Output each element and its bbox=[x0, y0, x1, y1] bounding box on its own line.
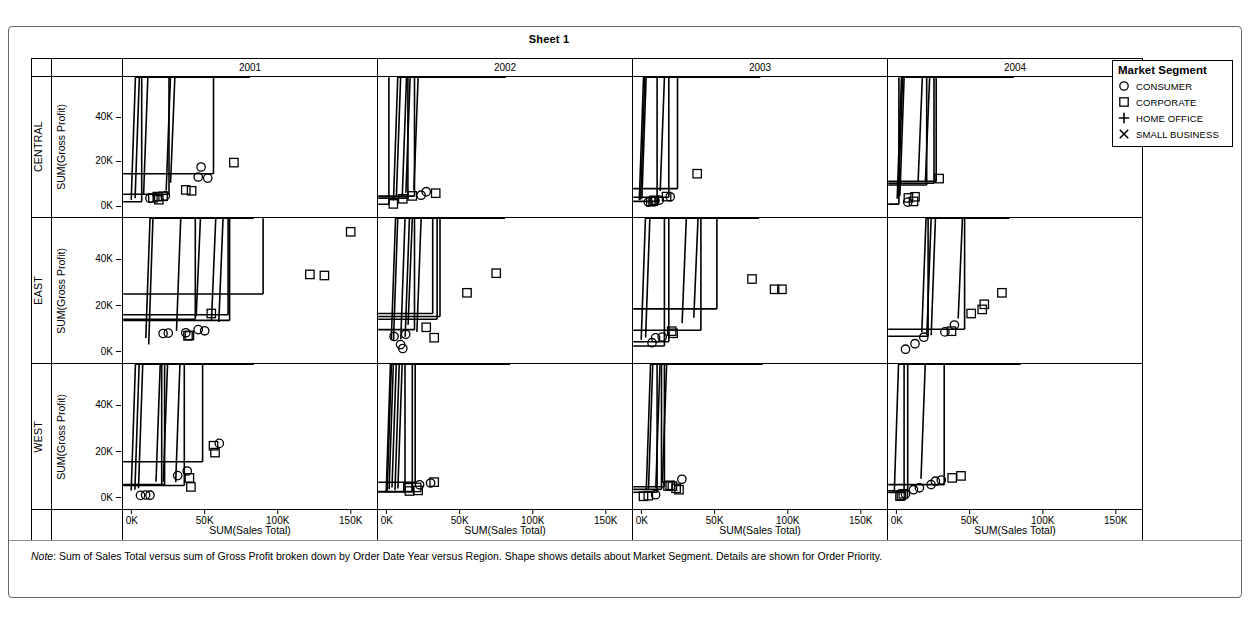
matrix-body: CENTRALSUM(Gross Profit) 0K20K40KEASTSUM… bbox=[32, 77, 1143, 541]
matrix-row-central: CENTRALSUM(Gross Profit) 0K20K40K bbox=[32, 77, 1143, 218]
panel-plot-area bbox=[888, 364, 1142, 509]
panel-plot-area bbox=[123, 364, 377, 509]
panel-west-2004[interactable] bbox=[888, 364, 1143, 510]
panel-plot-area bbox=[888, 77, 1142, 217]
panel-plot-area bbox=[888, 218, 1142, 363]
y-tick-list: 0K20K40K bbox=[70, 218, 122, 363]
y-tick-40K: 40K bbox=[95, 111, 122, 123]
x-tick-list: 0K50K100K150K bbox=[633, 510, 887, 524]
x-axis-row: 0K50K100K150K SUM(Sales Total)0K50K100K1… bbox=[32, 510, 1143, 541]
circle-icon bbox=[1117, 79, 1131, 93]
row-header-central: CENTRAL bbox=[32, 77, 52, 218]
panel-plot-area bbox=[123, 77, 377, 217]
x-tick-list: 0K50K100K150K bbox=[378, 510, 632, 524]
y-axis-title: SUM(Gross Profit) bbox=[53, 364, 69, 509]
panel-west-2002[interactable] bbox=[378, 364, 633, 510]
y-tick-40K: 40K bbox=[95, 399, 122, 411]
legend-item-label: CORPORATE bbox=[1136, 97, 1196, 108]
legend-panel: Market Segment CONSUMERCORPORATEHOME OFF… bbox=[1112, 60, 1233, 147]
y-axis-title: SUM(Gross Profit) bbox=[53, 218, 69, 363]
column-header-row: 2001200220032004 bbox=[32, 59, 1143, 77]
panel-plot-area bbox=[378, 77, 632, 217]
y-tick-list: 0K20K40K bbox=[70, 364, 122, 509]
row-header-label: EAST bbox=[32, 276, 44, 305]
x-axis-2001: 0K50K100K150K SUM(Sales Total) bbox=[123, 510, 378, 541]
legend-item-label: CONSUMER bbox=[1136, 81, 1192, 92]
visualization-frame: Sheet 1 2001200220032004 CENTRALSUM(Gros… bbox=[8, 26, 1242, 598]
scatter-matrix: 2001200220032004 CENTRALSUM(Gross Profit… bbox=[31, 58, 1143, 541]
panel-central-2001[interactable] bbox=[123, 77, 378, 218]
panel-central-2003[interactable] bbox=[633, 77, 888, 218]
x-tick-list: 0K50K100K150K bbox=[123, 510, 377, 524]
x-axis-title: SUM(Sales Total) bbox=[633, 524, 887, 536]
y-tick-20K: 20K bbox=[95, 155, 122, 167]
legend-title: Market Segment bbox=[1118, 64, 1228, 76]
caption-note: Note: Sum of Sales Total versus sum of G… bbox=[31, 549, 1229, 563]
panel-east-2003[interactable] bbox=[633, 218, 888, 364]
y-axis-east: SUM(Gross Profit) 0K20K40K bbox=[52, 218, 123, 364]
corner-cell-row-label bbox=[32, 59, 52, 77]
legend-item-consumer[interactable]: CONSUMER bbox=[1117, 78, 1228, 94]
row-header-east: EAST bbox=[32, 218, 52, 364]
note-separator bbox=[9, 540, 1241, 541]
column-header-2001: 2001 bbox=[123, 59, 378, 77]
y-tick-0K: 0K bbox=[101, 346, 122, 358]
y-tick-40K: 40K bbox=[95, 253, 122, 265]
x-axis-title: SUM(Sales Total) bbox=[378, 524, 632, 536]
y-axis-central: SUM(Gross Profit) 0K20K40K bbox=[52, 77, 123, 218]
legend-item-corporate[interactable]: CORPORATE bbox=[1117, 94, 1228, 110]
row-header-label: WEST bbox=[32, 421, 44, 453]
panel-plot-area bbox=[378, 364, 632, 509]
row-header-west: WEST bbox=[32, 364, 52, 510]
y-tick-20K: 20K bbox=[95, 446, 122, 458]
y-tick-list: 0K20K40K bbox=[70, 77, 122, 217]
screenshot-root: Sheet 1 2001200220032004 CENTRALSUM(Gros… bbox=[0, 0, 1253, 626]
panel-plot-area bbox=[378, 218, 632, 363]
legend-item-small-business[interactable]: SMALL BUSINESS bbox=[1117, 126, 1228, 142]
x-axis-title: SUM(Sales Total) bbox=[123, 524, 377, 536]
sheet-title: Sheet 1 bbox=[9, 33, 1089, 45]
x-axis-2004: 0K50K100K150K SUM(Sales Total) bbox=[888, 510, 1143, 541]
square-icon bbox=[1117, 95, 1131, 109]
y-tick-20K: 20K bbox=[95, 300, 122, 312]
matrix-row-east: EASTSUM(Gross Profit) 0K20K40K bbox=[32, 218, 1143, 364]
panel-east-2001[interactable] bbox=[123, 218, 378, 364]
cross-icon bbox=[1117, 127, 1131, 141]
legend-item-label: HOME OFFICE bbox=[1136, 113, 1203, 124]
panel-east-2004[interactable] bbox=[888, 218, 1143, 364]
panel-central-2004[interactable] bbox=[888, 77, 1143, 218]
x-axis-2002: 0K50K100K150K SUM(Sales Total) bbox=[378, 510, 633, 541]
panel-central-2002[interactable] bbox=[378, 77, 633, 218]
x-axis-2003: 0K50K100K150K SUM(Sales Total) bbox=[633, 510, 888, 541]
note-prefix: Note bbox=[31, 550, 53, 562]
panel-east-2002[interactable] bbox=[378, 218, 633, 364]
legend-item-home-office[interactable]: HOME OFFICE bbox=[1117, 110, 1228, 126]
y-axis-title: SUM(Gross Profit) bbox=[53, 77, 69, 217]
plus-icon bbox=[1117, 111, 1131, 125]
panel-plot-area bbox=[633, 77, 887, 217]
y-axis-west: SUM(Gross Profit) 0K20K40K bbox=[52, 364, 123, 510]
panel-plot-area bbox=[633, 218, 887, 363]
column-header-2002: 2002 bbox=[378, 59, 633, 77]
x-tick-list: 0K50K100K150K bbox=[888, 510, 1142, 524]
legend-item-label: SMALL BUSINESS bbox=[1136, 129, 1219, 140]
x-axis-corner-left bbox=[32, 510, 52, 541]
note-text: : Sum of Sales Total versus sum of Gross… bbox=[53, 550, 882, 562]
corner-cell-y-axis bbox=[52, 59, 123, 77]
column-header-2003: 2003 bbox=[633, 59, 888, 77]
matrix-row-west: WESTSUM(Gross Profit) 0K20K40K bbox=[32, 364, 1143, 510]
panel-west-2003[interactable] bbox=[633, 364, 888, 510]
column-header-2004: 2004 bbox=[888, 59, 1143, 77]
legend-items: CONSUMERCORPORATEHOME OFFICESMALL BUSINE… bbox=[1117, 78, 1228, 142]
x-axis-corner-y bbox=[52, 510, 123, 541]
panel-plot-area bbox=[633, 364, 887, 509]
y-tick-0K: 0K bbox=[101, 200, 122, 212]
matrix-header: 2001200220032004 bbox=[32, 59, 1143, 77]
panel-west-2001[interactable] bbox=[123, 364, 378, 510]
y-tick-0K: 0K bbox=[101, 492, 122, 504]
x-axis-title: SUM(Sales Total) bbox=[888, 524, 1142, 536]
panel-plot-area bbox=[123, 218, 377, 363]
row-header-label: CENTRAL bbox=[32, 121, 44, 172]
